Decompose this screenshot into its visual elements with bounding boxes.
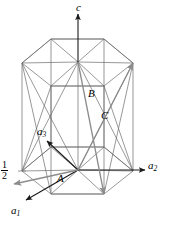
vector-label-C: C [101, 110, 108, 121]
axis-label-c: c [76, 2, 81, 15]
vector-label-B: B [88, 88, 95, 99]
unit-cell-svg [0, 0, 169, 228]
axis-label-a3: a3 [37, 126, 46, 139]
half-fraction-label: 1 2 [1, 160, 8, 181]
a3-axis-arrow [47, 141, 78, 170]
hexagonal-unit-cell-figure: c a2 a3 a1 A B C 1 2 [0, 0, 169, 228]
axis-label-a2: a2 [148, 160, 157, 173]
cross-struts [22, 62, 133, 171]
axis-label-a1: a1 [11, 205, 20, 218]
a1-axis-arrow [26, 170, 78, 200]
vector-label-A: A [57, 173, 64, 184]
